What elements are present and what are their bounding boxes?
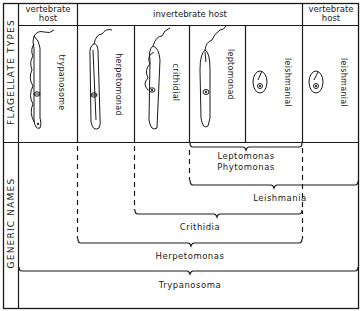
bracket-trypanosoma [19,267,358,274]
row-label-generic-names: GENERIC NAMES [6,139,16,307]
trypanosome-drawing-icon [30,30,54,128]
leishmanial-invertebrate-drawing-icon [253,71,267,93]
genus-leishmania: Leishmania [230,193,330,203]
type-label-leptomonad: leptomonad [226,35,235,115]
row-label-flagellate-types: FLAGELLATE TYPES [6,3,16,141]
type-label-trypanosome: trypanosome [57,43,66,123]
header-vertebrate-host-left: vertebrate host [22,5,74,23]
type-label-herpetomonad: herpetomonad [114,45,123,125]
type-label-crithidial: crithidial [171,43,180,123]
genus-crithidia: Crithidia [160,222,240,232]
type-label-leishmanial-vertebrate: leishmanial [339,43,348,123]
type-label-leishmanial-invertebrate: leishmanial [283,43,292,123]
genus-phytomonas: Phytomonas [190,162,302,172]
genus-trypanosoma: Trypanosoma [140,280,240,290]
leptomonad-drawing-icon [200,26,226,127]
crithidial-drawing-icon [145,28,170,129]
herpetomonad-drawing-icon [90,30,112,130]
leishmanial-vertebrate-drawing-icon [309,71,323,93]
header-vertebrate-host-right: vertebrate host [305,5,357,23]
bracket-leishmania [190,180,358,188]
header-invertebrate-host: invertebrate host [78,10,302,19]
flagellate-diagram [0,0,362,311]
genus-leptomonas: Leptomonas [190,151,302,161]
genus-herpetomonas: Herpetomonas [140,251,240,261]
